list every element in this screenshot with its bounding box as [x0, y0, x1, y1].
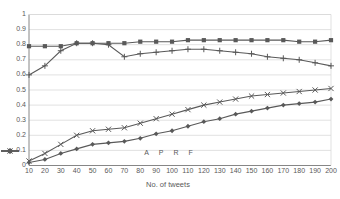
marker-square-A-17 [297, 40, 301, 44]
y-tick-label-7: 0.7 [0, 55, 26, 63]
marker-square-A-12 [218, 38, 222, 42]
legend-label-F: F [188, 149, 193, 157]
marker-square-A-6 [122, 41, 126, 45]
marker-square-A-11 [202, 38, 206, 42]
marker-square-A-1 [43, 44, 47, 48]
y-tick-label-10: 1 [0, 10, 26, 18]
legend-item-A[interactable]: A [143, 149, 149, 157]
marker-square-A-10 [186, 38, 190, 42]
legend-label-P: P [158, 149, 164, 157]
marker-square-A-16 [281, 38, 285, 42]
marker-square-A-14 [249, 38, 253, 42]
legend-label-A: A [143, 149, 149, 157]
marker-square-A-18 [313, 40, 317, 44]
marker-square-A-15 [265, 38, 269, 42]
marker-square-A-9 [170, 40, 174, 44]
y-tick-label-9: 0.9 [0, 25, 26, 33]
y-tick-label-3: 0.3 [0, 116, 26, 124]
legend-label-R: R [173, 149, 179, 157]
y-tick-label-6: 0.6 [0, 70, 26, 78]
legend-item-F[interactable]: F [188, 149, 193, 157]
x-tick-label-19: 200 [322, 167, 340, 175]
chart-legend: APRF [0, 146, 336, 160]
x-axis-title: No. of tweets [0, 180, 336, 189]
marker-square-A-19 [329, 38, 333, 42]
legend-swatch-cross-icon [0, 146, 20, 156]
marker-square-A-0 [27, 44, 31, 48]
marker-square-A-8 [154, 40, 158, 44]
marker-square-A-7 [138, 40, 142, 44]
marker-square-A-2 [59, 44, 63, 48]
legend-item-R[interactable]: R [173, 149, 179, 157]
y-tick-label-5: 0.5 [0, 86, 26, 94]
y-tick-label-2: 0.2 [0, 131, 26, 139]
legend-item-P[interactable]: P [158, 149, 164, 157]
marker-square-A-13 [234, 38, 238, 42]
y-tick-label-8: 0.8 [0, 40, 26, 48]
y-tick-label-4: 0.4 [0, 101, 26, 109]
